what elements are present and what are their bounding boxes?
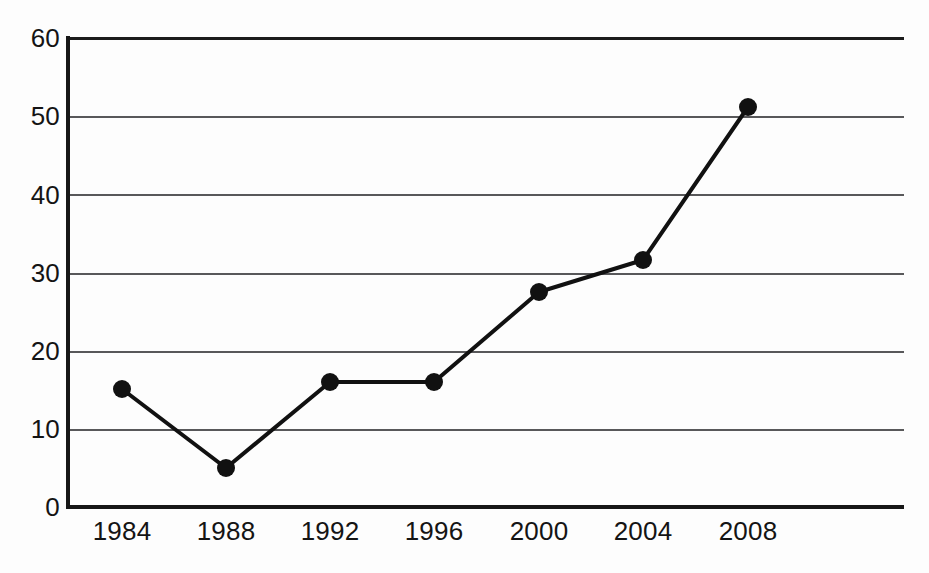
x-axis-line bbox=[66, 505, 904, 509]
gridline-50 bbox=[68, 116, 904, 118]
gridline-60 bbox=[68, 37, 904, 40]
y-axis-line bbox=[66, 36, 70, 509]
plot-area bbox=[68, 37, 904, 507]
y-tick-label-20: 20 bbox=[2, 338, 60, 364]
y-tick-label-50: 50 bbox=[2, 103, 60, 129]
line-chart: 60 50 40 30 20 10 0 1984 1988 1992 1996 … bbox=[0, 0, 929, 573]
x-tick-label-2000: 2000 bbox=[510, 518, 569, 544]
y-tick-label-40: 40 bbox=[2, 182, 60, 208]
y-axis-labels: 60 50 40 30 20 10 0 bbox=[0, 0, 60, 573]
gridline-20 bbox=[68, 351, 904, 353]
gridline-30 bbox=[68, 273, 904, 275]
x-tick-label-2008: 2008 bbox=[719, 518, 778, 544]
y-tick-label-30: 30 bbox=[2, 260, 60, 286]
x-axis-labels: 1984 1988 1992 1996 2000 2004 2008 bbox=[0, 518, 929, 558]
x-tick-label-1996: 1996 bbox=[405, 518, 464, 544]
x-tick-label-1984: 1984 bbox=[93, 518, 152, 544]
gridline-40 bbox=[68, 194, 904, 196]
gridline-10 bbox=[68, 429, 904, 431]
y-tick-label-10: 10 bbox=[2, 416, 60, 442]
x-tick-label-1988: 1988 bbox=[197, 518, 256, 544]
y-tick-label-0: 0 bbox=[2, 494, 60, 520]
x-tick-label-1992: 1992 bbox=[301, 518, 360, 544]
y-tick-label-60: 60 bbox=[2, 25, 60, 51]
x-tick-label-2004: 2004 bbox=[614, 518, 673, 544]
